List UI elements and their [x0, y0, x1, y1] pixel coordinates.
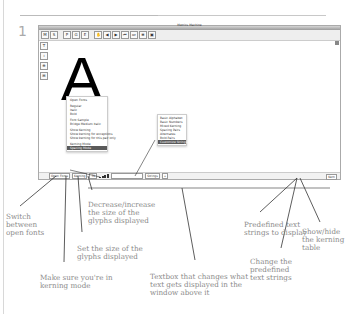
- callout-kerning-mode: Make sure you're in kerning mode: [40, 274, 120, 290]
- callout-size-step: Decrease/increase the size of the glyphs…: [88, 201, 160, 225]
- callout-textbox: Textbox that changes what text gets disp…: [150, 273, 250, 297]
- callout-line-font-menu: [70, 170, 100, 177]
- callout-line-set-size: [78, 176, 82, 232]
- callout-switch-fonts: Switch between open fonts: [6, 213, 46, 237]
- callout-line-textbox: [182, 188, 195, 260]
- callout-change-predefined: Change the predefined text strings: [250, 258, 300, 282]
- callout-lines: [0, 0, 358, 314]
- callout-set-size: Set the size of the glyphs displayed: [77, 245, 147, 261]
- callout-show-kerning: Show/hide the kerning table: [302, 228, 352, 252]
- callout-line-switch-fonts: [20, 176, 56, 206]
- callout-line-text-menu: [135, 140, 155, 176]
- callout-line-show-kerning: [300, 178, 320, 222]
- callout-line-change-predefined: [281, 178, 297, 248]
- callout-line-predefined: [260, 178, 297, 212]
- callout-line-kerning-mode: [64, 176, 66, 262]
